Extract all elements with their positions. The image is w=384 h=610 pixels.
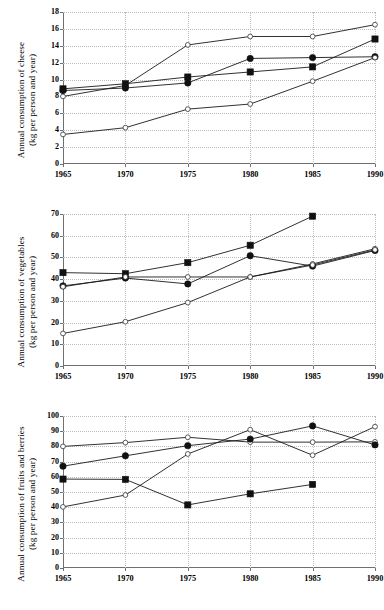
series-line-series-filled-square	[63, 39, 375, 89]
x-tick-mark	[188, 164, 189, 167]
series-line-series-filled-circle	[63, 250, 375, 285]
plot-area-vegetables: 010203040506070196519701975198019851990	[63, 214, 375, 366]
data-point-marker	[310, 64, 316, 70]
y-tick-label: 70	[51, 210, 59, 218]
x-tick-label: 1975	[180, 574, 197, 583]
y-tick-label: 4	[55, 126, 59, 134]
y-tick-label: 0	[55, 362, 59, 370]
x-tick-label: 1970	[117, 372, 134, 381]
data-point-marker	[185, 435, 190, 440]
data-point-marker	[247, 252, 253, 258]
x-tick-label: 1965	[55, 170, 72, 179]
data-point-marker	[61, 444, 66, 449]
data-point-marker	[247, 436, 253, 442]
x-tick-mark	[125, 568, 126, 571]
y-tick-label: 0	[55, 160, 59, 168]
x-tick-mark	[188, 366, 189, 369]
x-tick-mark	[250, 366, 251, 369]
data-point-marker	[248, 427, 253, 432]
x-tick-label: 1985	[304, 372, 321, 381]
x-tick-label: 1990	[367, 574, 384, 583]
data-point-marker	[123, 275, 128, 280]
data-point-marker	[60, 87, 66, 93]
data-point-marker	[185, 43, 190, 48]
series-line-series-open-circle-flat	[63, 249, 375, 287]
data-point-marker	[247, 242, 253, 248]
series-layer	[63, 214, 375, 366]
data-point-marker	[185, 260, 191, 266]
y-tick-label: 50	[51, 253, 59, 261]
grid-line-vertical	[375, 416, 376, 568]
y-tick-label: 12	[51, 59, 59, 67]
y-axis-title-cheese: Annual consumption of cheese (kg per per…	[14, 12, 40, 188]
x-tick-mark	[63, 568, 64, 571]
x-tick-mark	[250, 164, 251, 167]
x-tick-label: 1980	[242, 372, 259, 381]
x-tick-mark	[375, 568, 376, 571]
data-point-marker	[248, 34, 253, 39]
data-point-marker	[185, 275, 190, 280]
y-axis-title-fruits-berries: Annual consumption of fruits and berries…	[14, 416, 40, 592]
x-tick-label: 1965	[55, 574, 72, 583]
data-point-marker	[310, 213, 316, 219]
data-point-marker	[185, 452, 190, 457]
data-point-marker	[61, 132, 66, 137]
y-axis-title-wrap-vegetables: Annual consumption of vegetables (kg per…	[14, 214, 40, 390]
y-tick-label: 100	[47, 412, 59, 420]
y-tick-label: 40	[51, 275, 59, 283]
series-layer	[63, 416, 375, 568]
data-point-marker	[123, 440, 128, 445]
data-point-marker	[122, 453, 128, 459]
x-tick-mark	[375, 366, 376, 369]
y-tick-label: 10	[51, 76, 59, 84]
figure-root: Annual consumption of cheese (kg per per…	[0, 0, 384, 610]
data-point-marker	[123, 125, 128, 130]
data-point-marker	[248, 102, 253, 107]
series-line-series-open-circle-high	[63, 25, 375, 97]
data-point-marker	[185, 502, 191, 508]
y-axis-title-wrap-fruits-berries: Annual consumption of fruits and berries…	[14, 416, 40, 592]
x-tick-mark	[250, 568, 251, 571]
x-tick-label: 1985	[304, 574, 321, 583]
y-tick-label: 30	[51, 518, 59, 526]
y-tick-label: 16	[51, 25, 59, 33]
data-point-marker	[310, 481, 316, 487]
data-point-marker	[185, 300, 190, 305]
series-line-series-filled-square	[63, 479, 313, 505]
data-point-marker	[373, 55, 378, 60]
y-tick-label: 30	[51, 297, 59, 305]
x-tick-label: 1970	[117, 170, 134, 179]
data-point-marker	[185, 107, 190, 112]
data-point-marker	[61, 94, 66, 99]
chart-panel-vegetables: Annual consumption of vegetables (kg per…	[0, 206, 384, 406]
y-tick-label: 20	[51, 534, 59, 542]
x-tick-label: 1990	[367, 170, 384, 179]
x-tick-mark	[63, 164, 64, 167]
y-tick-label: 18	[51, 8, 59, 16]
x-tick-mark	[125, 164, 126, 167]
data-point-marker	[61, 505, 66, 510]
data-point-marker	[122, 476, 128, 482]
data-point-marker	[247, 491, 253, 497]
data-point-marker	[310, 79, 315, 84]
y-tick-label: 8	[55, 92, 59, 100]
y-tick-label: 50	[51, 488, 59, 496]
series-line-series-open-circle-low	[63, 427, 375, 507]
y-tick-label: 10	[51, 549, 59, 557]
data-point-marker	[60, 476, 66, 482]
series-layer	[63, 12, 375, 164]
y-tick-label: 80	[51, 442, 59, 450]
data-point-marker	[310, 263, 315, 268]
x-tick-label: 1980	[242, 170, 259, 179]
grid-line-vertical	[375, 214, 376, 366]
plot-area-fruits-berries: 0102030405060708090100196519701975198019…	[63, 416, 375, 568]
x-tick-mark	[188, 568, 189, 571]
data-point-marker	[310, 34, 315, 39]
data-point-marker	[61, 331, 66, 336]
chart-panel-cheese: Annual consumption of cheese (kg per per…	[0, 4, 384, 204]
data-point-marker	[247, 55, 253, 61]
data-point-marker	[372, 442, 378, 448]
y-tick-label: 60	[51, 473, 59, 481]
y-tick-label: 10	[51, 340, 59, 348]
data-point-marker	[310, 453, 315, 458]
